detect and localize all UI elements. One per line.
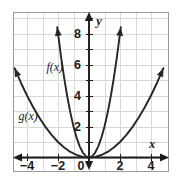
x-tick-label: 4	[148, 159, 155, 173]
x-tick-label: −2	[51, 159, 65, 173]
origin-label: 0	[78, 159, 85, 173]
plot-background	[14, 13, 169, 172]
y-tick-label: 4	[74, 89, 81, 103]
curve-label-gx: g(x)	[18, 109, 37, 123]
coordinate-plane: −4−224 2468 0 x y f(x)g(x)	[0, 0, 179, 180]
x-tick-label: −4	[20, 159, 34, 173]
x-axis-name-label: x	[148, 137, 155, 151]
curve-label-fx: f(x)	[46, 60, 63, 74]
y-tick-label: 6	[74, 58, 81, 72]
y-tick-label: 8	[74, 27, 81, 41]
y-axis-name-label: y	[94, 14, 102, 28]
graph-figure: −4−224 2468 0 x y f(x)g(x)	[0, 0, 179, 180]
x-tick-label: 2	[117, 159, 124, 173]
y-tick-label: 2	[74, 120, 81, 134]
